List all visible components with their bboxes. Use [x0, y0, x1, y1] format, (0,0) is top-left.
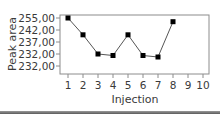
- y-axis-title: Peak area: [6, 17, 19, 71]
- x-tick-label: 8: [170, 79, 177, 91]
- bottom-separator: [0, 111, 220, 114]
- x-tick-label: 7: [155, 79, 162, 91]
- data-point-marker: [111, 53, 116, 58]
- data-point-marker: [81, 32, 86, 37]
- y-tick-label: 232,00: [18, 48, 55, 60]
- x-tick-label: 10: [196, 79, 209, 91]
- x-tick-label: 1: [65, 79, 72, 91]
- y-tick-label: 255,00: [18, 12, 55, 24]
- x-axis-title: Injection: [111, 93, 158, 106]
- x-tick-label: 3: [95, 79, 102, 91]
- x-tick-label: 9: [185, 79, 192, 91]
- y-tick-label: 242,00: [18, 24, 55, 36]
- y-tick-label: 237,00: [18, 36, 55, 48]
- data-point-marker: [66, 16, 71, 21]
- x-tick-label: 2: [80, 79, 87, 91]
- data-point-marker: [141, 53, 146, 58]
- y-axis-ticks: 255,00242,00237,00232,00232,00: [18, 12, 60, 72]
- data-point-marker: [96, 52, 101, 57]
- x-tick-label: 5: [125, 79, 132, 91]
- x-axis-ticks: 12345678910: [65, 74, 210, 91]
- x-tick-label: 4: [110, 79, 117, 91]
- data-point-marker: [156, 55, 161, 60]
- y-tick-label: 232,00: [18, 60, 55, 72]
- data-point-marker: [126, 32, 131, 37]
- data-point-marker: [171, 19, 176, 24]
- x-tick-label: 6: [140, 79, 147, 91]
- peak-area-line-chart: 255,00242,00237,00232,00232,00 123456789…: [0, 0, 220, 114]
